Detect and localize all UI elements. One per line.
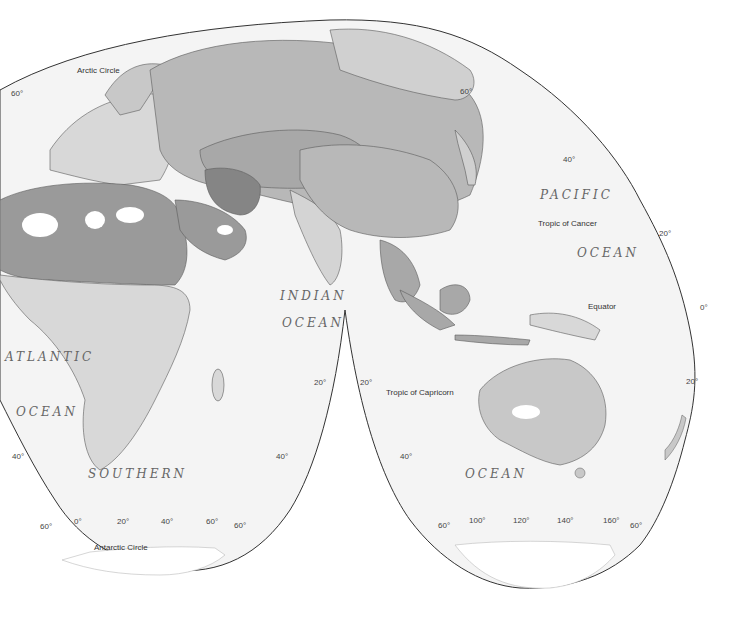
lat-label: 40° [563, 155, 575, 164]
land-north-africa [0, 183, 187, 285]
desert-patch [85, 211, 105, 229]
lat-label: 40° [12, 452, 24, 461]
ocean-label-atlantic-ocean: OCEAN [16, 405, 78, 419]
lat-label: 60° [630, 521, 642, 530]
antarctica-east [455, 541, 615, 588]
ocean-label-southern: SOUTHERN [88, 467, 187, 481]
world-map [0, 0, 734, 621]
lon-label: 60° [206, 517, 218, 526]
lon-label: 20° [117, 517, 129, 526]
desert-patch [217, 225, 233, 235]
lat-label: 40° [276, 452, 288, 461]
lat-label: 20° [314, 378, 326, 387]
lon-label: 160° [603, 516, 620, 525]
label-arctic-circle: Arctic Circle [77, 66, 120, 75]
label-equator: Equator [588, 302, 616, 311]
land-tasmania [575, 468, 585, 478]
label-tropic-of-capricorn: Tropic of Capricorn [386, 388, 454, 397]
lon-label: 0° [74, 517, 82, 526]
lat-label: 60° [11, 89, 23, 98]
lat-label: 60° [438, 521, 450, 530]
lat-label: 60° [40, 522, 52, 531]
desert-patch [22, 213, 58, 237]
lat-label: 60° [234, 521, 246, 530]
lon-label: 140° [557, 516, 574, 525]
desert-patch-australia [512, 405, 540, 419]
ocean-label-pacific: PACIFIC [540, 188, 613, 202]
ocean-label-indian-ocean: OCEAN [282, 316, 344, 330]
lat-label: 0° [700, 303, 708, 312]
ocean-label-atlantic: ATLANTIC [5, 350, 94, 364]
lat-label: 40° [400, 452, 412, 461]
lon-label: 100° [469, 516, 486, 525]
lat-label: 20° [659, 229, 671, 238]
desert-patch [116, 207, 144, 223]
ocean-label-indian: INDIAN [280, 289, 347, 303]
ocean-label-southern-ocean: OCEAN [465, 467, 527, 481]
lat-label: 60° [460, 87, 472, 96]
label-antarctic-circle: Antarctic Circle [94, 543, 148, 552]
lat-label: 20° [686, 377, 698, 386]
label-tropic-of-cancer: Tropic of Cancer [538, 219, 597, 228]
lat-label: 20° [360, 378, 372, 387]
land-madagascar [212, 369, 224, 401]
lon-label: 120° [513, 516, 530, 525]
lon-label: 40° [161, 517, 173, 526]
ocean-label-pacific-ocean: OCEAN [577, 246, 639, 260]
